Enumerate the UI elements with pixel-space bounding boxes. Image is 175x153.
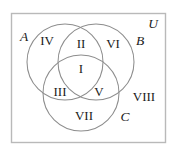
set-label-c: C — [120, 109, 130, 124]
venn-diagram-canvas: U A B C I II III IV V VI VII VIII — [0, 0, 175, 153]
region-label-ii: II — [77, 36, 86, 51]
region-label-vii: VII — [75, 108, 93, 123]
set-label-b: B — [136, 33, 144, 48]
region-label-iv: IV — [40, 33, 54, 48]
region-label-v: V — [94, 84, 104, 99]
universe-label: U — [148, 16, 159, 31]
venn-diagram-figure: U A B C I II III IV V VI VII VIII — [0, 0, 175, 153]
set-label-a: A — [19, 29, 29, 44]
region-label-iii: III — [54, 84, 67, 99]
region-label-i: I — [79, 61, 83, 76]
region-label-viii: VIII — [133, 89, 155, 104]
region-label-vi: VI — [106, 36, 120, 51]
